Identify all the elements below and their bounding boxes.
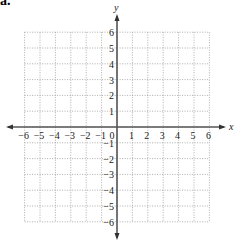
y-tick-label: −3 [103, 169, 114, 180]
x-tick-label: −3 [64, 130, 75, 141]
y-tick-label: 2 [109, 90, 114, 101]
x-tick-label: 6 [206, 130, 211, 141]
y-axis-label: y [113, 2, 119, 13]
y-tick-label: −6 [103, 217, 114, 228]
x-axis-label: x [228, 121, 234, 132]
x-tick-label: 2 [144, 130, 149, 141]
x-tick-label: −6 [18, 130, 29, 141]
y-tick-label: 6 [109, 27, 114, 38]
coordinate-plane: xy−6−5−4−3−2−10123456−6−5−4−3−2−1123456 [0, 0, 242, 243]
y-tick-label: −2 [103, 154, 114, 165]
y-tick-label: 4 [109, 59, 114, 70]
x-tick-label: −2 [80, 130, 91, 141]
x-tick-label: 1 [129, 130, 134, 141]
y-axis-arrow-up-icon [115, 14, 120, 21]
x-axis-arrow-right-icon [219, 125, 226, 130]
y-tick-label: 5 [109, 43, 114, 54]
x-tick-label: −4 [49, 130, 60, 141]
x-axis-arrow-left-icon [6, 125, 13, 130]
x-tick-label: 3 [160, 130, 165, 141]
y-tick-label: −5 [103, 201, 114, 212]
y-tick-label: 3 [109, 75, 114, 86]
x-tick-label: −5 [34, 130, 45, 141]
x-tick-label: 5 [191, 130, 196, 141]
y-tick-label: −4 [103, 185, 114, 196]
y-axis-arrow-down-icon [115, 233, 120, 240]
y-tick-label: −1 [103, 138, 114, 149]
x-tick-label: 4 [175, 130, 180, 141]
y-tick-label: 1 [109, 106, 114, 117]
